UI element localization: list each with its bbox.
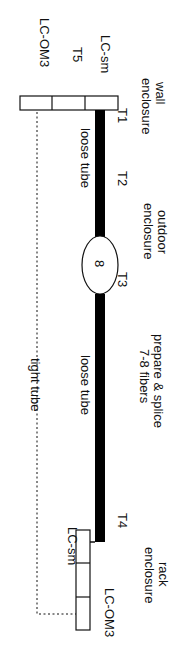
- rack-enclosure-label: rack enclosure: [142, 547, 171, 603]
- wall-port-t5: T5: [70, 47, 85, 62]
- loose-tube-label-1: loose tube: [78, 128, 93, 188]
- terminal-t4: T4: [115, 513, 130, 528]
- fiber-diagram: wall enclosure LC-sm T5 LC-OM3 T1 T2 T3 …: [0, 0, 172, 667]
- loose-tube-label-2: loose tube: [78, 355, 93, 415]
- rack-port-lc-sm: LC-sm: [65, 527, 80, 565]
- svg-text:7-8 fibers: 7-8 fibers: [137, 349, 152, 404]
- svg-text:outdoor: outdoor: [155, 210, 170, 255]
- wall-patch-panel: [20, 96, 118, 110]
- wall-port-lc-om3: LC-OM3: [37, 18, 52, 67]
- svg-text:enclosure: enclosure: [141, 203, 156, 259]
- splice-count: 8: [92, 260, 107, 267]
- outdoor-enclosure-label: outdoor enclosure: [141, 203, 170, 259]
- splice-instruction-label: prepare & splice 7-8 fibers: [137, 334, 166, 428]
- wall-port-lc-sm: LC-sm: [98, 35, 113, 73]
- terminal-t2: T2: [115, 171, 130, 186]
- rack-port-lc-om3: LC-OM3: [102, 588, 117, 637]
- fiber-segment-t1-t2: [95, 110, 105, 246]
- svg-text:enclosure: enclosure: [142, 547, 157, 603]
- svg-text:rack: rack: [156, 562, 171, 587]
- svg-text:prepare & splice: prepare & splice: [151, 334, 166, 428]
- svg-text:enclosure: enclosure: [139, 78, 154, 134]
- tight-tube-label: tight tube: [28, 358, 43, 412]
- terminal-t3: T3: [115, 272, 130, 287]
- wall-enclosure-label: wall enclosure: [139, 78, 168, 134]
- fiber-segment-t3-t4: [95, 294, 105, 542]
- svg-text:wall: wall: [153, 81, 168, 105]
- terminal-t1: T1: [115, 108, 130, 123]
